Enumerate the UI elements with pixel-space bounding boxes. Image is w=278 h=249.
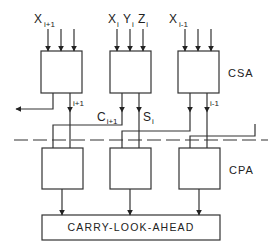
input-label-left: Xi+1 — [34, 12, 55, 29]
carry-out-arrow — [16, 93, 53, 109]
stage-label-csa: CSA — [228, 67, 254, 79]
carry-in-wire — [190, 124, 255, 148]
input-label-yi: Yi — [123, 12, 134, 29]
signal-label-sum: Si — [143, 110, 154, 126]
signal-label-carry: Ci+1 — [97, 110, 118, 126]
cpa-block-middle — [110, 148, 151, 189]
csa-block-left — [41, 51, 82, 93]
csa-block-middle — [110, 51, 151, 93]
csa-block-right — [178, 51, 219, 93]
signal-label-left: i+1 — [73, 99, 84, 108]
stage-label-cpa: CPA — [229, 164, 254, 176]
input-label-right: Xi-1 — [169, 12, 188, 29]
csa-cpa-diagram: Xi+1 Xi Yi Zi Xi-1 CSA CPA i+1 Ci+1 Si i… — [0, 0, 278, 249]
input-label-xi: Xi — [108, 12, 119, 29]
cpa-block-left — [42, 148, 83, 189]
cpa-block-right — [179, 148, 220, 189]
input-label-zi: Zi — [138, 12, 148, 29]
carry-wire-right — [122, 112, 190, 148]
carry-look-ahead-label: CARRY-LOOK-AHEAD — [67, 221, 194, 233]
signal-label-right: i-1 — [210, 99, 219, 108]
